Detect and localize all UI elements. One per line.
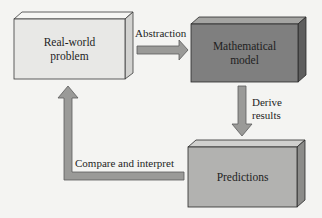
- real-world-label-line2: problem: [50, 49, 88, 63]
- math-model-label-line2: model: [230, 53, 259, 67]
- predictions-label-text: Predictions: [217, 170, 269, 184]
- derive-results-arrow-icon: [232, 86, 252, 136]
- abstraction-label: Abstraction: [135, 27, 186, 40]
- derive-label-line1: Derive: [252, 96, 282, 109]
- abstraction-arrow-icon: [137, 40, 188, 60]
- real-world-problem-label: Real-world problem: [14, 19, 125, 79]
- predictions-label: Predictions: [188, 147, 297, 207]
- real-world-label-line1: Real-world: [44, 35, 96, 49]
- derive-results-label: Derive results: [252, 96, 282, 122]
- modeling-cycle-diagram: Real-world problem Mathematical model Pr…: [0, 0, 322, 218]
- derive-label-line2: results: [252, 109, 282, 122]
- compare-interpret-label: Compare and interpret: [75, 157, 174, 170]
- mathematical-model-label: Mathematical model: [191, 24, 298, 82]
- math-model-label-line1: Mathematical: [213, 39, 276, 53]
